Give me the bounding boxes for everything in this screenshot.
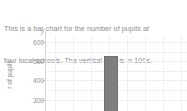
gridline-vertical-8 bbox=[181, 35, 182, 111]
y-tick-label-600: 600 bbox=[20, 39, 44, 46]
gridline-vertical-3 bbox=[91, 35, 92, 111]
gridline-vertical-1 bbox=[55, 35, 56, 111]
y-axis-symbol: y bbox=[41, 27, 44, 34]
y-axis-title: r of pupils bbox=[6, 48, 13, 102]
bar-item[interactable] bbox=[104, 56, 118, 111]
gridline-vertical-2 bbox=[73, 35, 74, 111]
plot-area bbox=[46, 35, 187, 111]
gridline-vertical-6 bbox=[145, 35, 146, 111]
y-tick-label-500: 500 bbox=[20, 58, 44, 65]
y-axis-line bbox=[45, 31, 46, 111]
gridline-vertical-5 bbox=[127, 35, 128, 111]
gridline-vertical-7 bbox=[163, 35, 164, 111]
y-tick-label-400: 400 bbox=[20, 77, 44, 84]
bar-chart: y 600 500 400 300 r of pupils bbox=[0, 27, 187, 111]
gridline-horizontal-550 bbox=[46, 52, 187, 53]
y-tick-label-300: 300 bbox=[20, 97, 44, 104]
gridline-horizontal-600 bbox=[46, 42, 187, 43]
